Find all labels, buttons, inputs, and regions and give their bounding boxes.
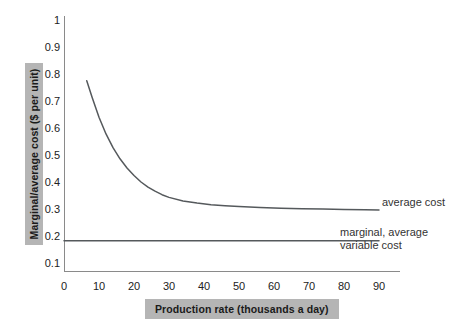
annotation-mavc-line2: variable cost xyxy=(340,239,428,252)
average-cost-curve xyxy=(87,81,379,210)
chart-figure: 1 0.9 0.8 0.7 0.6 0.5 0.4 0.3 0.2 0.1 0 … xyxy=(0,0,452,335)
x-axis-title: Production rate (thousands a day) xyxy=(145,299,339,319)
annotation-marginal-average-variable-cost: marginal, average variable cost xyxy=(340,226,428,252)
y-axis-title: Marginal/average cost ($ per unit) xyxy=(25,63,43,245)
annotation-mavc-line1: marginal, average xyxy=(340,226,428,239)
chart-plot-area xyxy=(0,0,452,335)
annotation-average-cost: average cost xyxy=(382,196,445,209)
